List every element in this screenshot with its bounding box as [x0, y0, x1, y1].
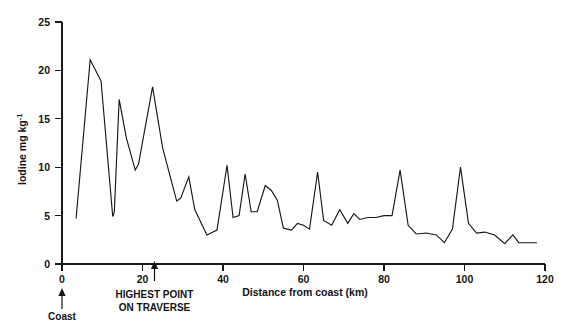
x-axis-ticks: [62, 264, 545, 271]
y-axis-ticks: [55, 22, 62, 264]
annotation-highest-point-on-traverse: HIGHEST POINT ON TRAVERSE: [116, 261, 194, 313]
y-tick-label: 15: [38, 113, 50, 125]
x-tick-label: 100: [456, 273, 474, 285]
highest-point-arrow-up-icon: [151, 261, 158, 269]
y-tick-label: 25: [38, 16, 50, 28]
x-tick-label: 120: [536, 273, 554, 285]
x-tick-label: 40: [217, 273, 229, 285]
annotation-coast-label: Coast: [48, 311, 76, 322]
iodine-distance-line-chart: 0 5 10 15 20 25 0 20 40 60 80 100 120: [0, 0, 580, 322]
x-tick-label: 80: [378, 273, 390, 285]
y-axis-title: Iodine mg kg-1: [15, 114, 28, 185]
chart-page: 0 5 10 15 20 25 0 20 40 60 80 100 120: [0, 0, 580, 322]
y-tick-label: 0: [44, 258, 50, 270]
x-axis-title: Distance from coast (km): [242, 286, 367, 298]
annotation-highest-point-line1: HIGHEST POINT: [116, 289, 194, 300]
y-tick-label: 10: [38, 161, 50, 173]
data-series-line: [76, 60, 537, 244]
y-axis-tick-labels: 0 5 10 15 20 25: [38, 16, 50, 270]
annotation-coast: Coast: [48, 288, 76, 322]
x-axis-tick-labels: 0 20 40 60 80 100 120: [59, 273, 554, 285]
y-tick-label: 20: [38, 64, 50, 76]
coast-arrow-up-icon: [58, 288, 65, 296]
x-tick-label: 0: [59, 273, 65, 285]
y-tick-label: 5: [44, 210, 50, 222]
x-tick-label: 60: [298, 273, 310, 285]
x-tick-label: 20: [137, 273, 149, 285]
annotation-highest-point-line2: ON TRAVERSE: [119, 302, 191, 313]
